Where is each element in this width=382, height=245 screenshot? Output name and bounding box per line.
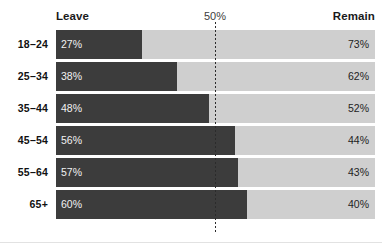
value-label-leave: 57% [61, 158, 82, 187]
chart-row: 55–6457%43% [0, 158, 382, 187]
category-label: 55–64 [0, 158, 48, 187]
legend-label-leave: Leave [56, 9, 89, 23]
value-label-leave: 60% [61, 190, 82, 219]
value-label-leave: 38% [61, 62, 82, 91]
value-label-remain: 73% [348, 30, 369, 59]
plot-area: 18–2427%73%25–3438%62%35–4448%52%45–5456… [0, 30, 382, 223]
chart-row: 65+60%40% [0, 190, 382, 219]
chart-row: 25–3438%62% [0, 62, 382, 91]
value-label-leave: 56% [61, 126, 82, 155]
bottom-divider [0, 242, 382, 243]
bar-segment-leave [56, 126, 235, 155]
axis-midpoint-label: 50% [204, 9, 226, 23]
value-label-leave: 48% [61, 94, 82, 123]
bar-segment-leave [56, 190, 247, 219]
category-label: 45–54 [0, 126, 48, 155]
value-label-remain: 52% [348, 94, 369, 123]
chart-row: 35–4448%52% [0, 94, 382, 123]
bar-segment-leave [56, 158, 238, 187]
value-label-remain: 43% [348, 158, 369, 187]
chart-header: Leave 50% Remain [0, 9, 382, 27]
legend-label-remain: Remain [333, 9, 375, 23]
category-label: 35–44 [0, 94, 48, 123]
chart-row: 18–2427%73% [0, 30, 382, 59]
category-label: 25–34 [0, 62, 48, 91]
value-label-remain: 44% [348, 126, 369, 155]
chart-container: Leave 50% Remain 18–2427%73%25–3438%62%3… [0, 0, 382, 245]
category-label: 18–24 [0, 30, 48, 59]
fifty-percent-reference-line [215, 22, 216, 232]
value-label-leave: 27% [61, 30, 82, 59]
value-label-remain: 40% [348, 190, 369, 219]
chart-row: 45–5456%44% [0, 126, 382, 155]
category-label: 65+ [0, 190, 48, 219]
value-label-remain: 62% [348, 62, 369, 91]
